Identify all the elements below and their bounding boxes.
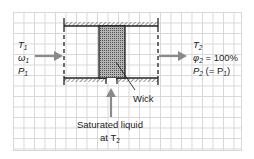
wick-label: Wick xyxy=(133,94,154,104)
outlet-relative-humidity-label: φ2 = 100% xyxy=(193,53,238,65)
inlet-arrow-icon xyxy=(35,51,63,61)
outlet-pressure-label: P2 (= P1) xyxy=(193,66,230,78)
outlet-arrow-icon xyxy=(159,51,187,61)
liquid-temperature-label: at T2 xyxy=(100,133,120,145)
inlet-pressure-label: P1 xyxy=(18,66,28,78)
humidifier-schematic xyxy=(0,0,254,159)
inlet-humidity-ratio-label: ω1 xyxy=(18,53,29,65)
inlet-temperature-label: T1 xyxy=(18,40,27,52)
saturated-liquid-label: Saturated liquid xyxy=(77,120,143,130)
outlet-temperature-label: T2 xyxy=(193,40,202,52)
liquid-supply-arrow-icon xyxy=(106,88,116,117)
